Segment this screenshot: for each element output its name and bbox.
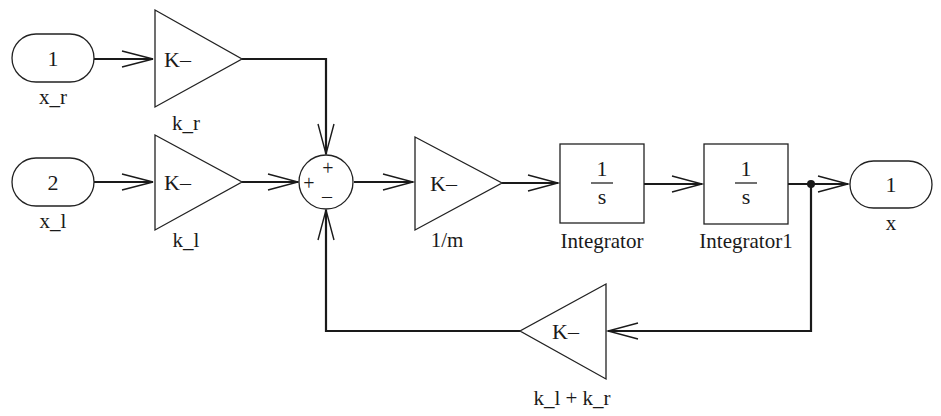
gain-content: K– — [552, 319, 580, 344]
inport-block-xl[interactable]: 2 — [12, 158, 94, 206]
outport-number: 1 — [886, 172, 897, 197]
inport-number: 1 — [48, 46, 59, 71]
integrator-label: Integrator — [561, 229, 644, 253]
sum-block[interactable]: + + – — [299, 155, 353, 209]
gain-label-kr: k_r — [172, 111, 200, 135]
inport-label-xl: x_l — [40, 209, 67, 233]
gain-block-feedback[interactable]: K– — [520, 284, 606, 379]
outport-label-x: x — [886, 211, 897, 235]
gain-label-kl: k_l — [173, 228, 200, 252]
integrator1-numerator: 1 — [741, 156, 752, 181]
integrator-numerator: 1 — [597, 156, 608, 181]
gain-content: K– — [164, 47, 192, 72]
sum-sign-top: + — [322, 157, 333, 179]
integrator-denominator: s — [598, 184, 607, 209]
inport-number: 2 — [48, 170, 59, 195]
wire-kr-to-sum[interactable] — [242, 59, 326, 154]
gain-label-m: 1/m — [431, 228, 464, 252]
sum-sign-left: + — [303, 172, 314, 194]
integrator1-denominator: s — [742, 184, 751, 209]
gain-content: K– — [430, 171, 458, 196]
wire-feedback-gain-to-sum[interactable] — [326, 210, 520, 331]
gain-block-kl[interactable]: K– — [155, 135, 242, 230]
diagram-canvas: 1 x_r 2 x_l K– k_r K– k_l + + – K– 1/m 1… — [0, 0, 941, 416]
gain-content: K– — [164, 170, 192, 195]
gain-block-kr[interactable]: K– — [155, 10, 242, 107]
sum-sign-bottom: – — [321, 185, 333, 207]
outport-block-x[interactable]: 1 — [850, 161, 932, 208]
integrator1-block[interactable]: 1 s — [704, 144, 788, 224]
gain-label-feedback: k_l + k_r — [533, 386, 610, 410]
inport-label-xr: x_r — [39, 85, 67, 109]
inport-block-xr[interactable]: 1 — [12, 34, 94, 82]
gain-block-m[interactable]: K– — [415, 137, 502, 230]
integrator1-label: Integrator1 — [699, 229, 792, 253]
integrator-block[interactable]: 1 s — [560, 144, 644, 223]
